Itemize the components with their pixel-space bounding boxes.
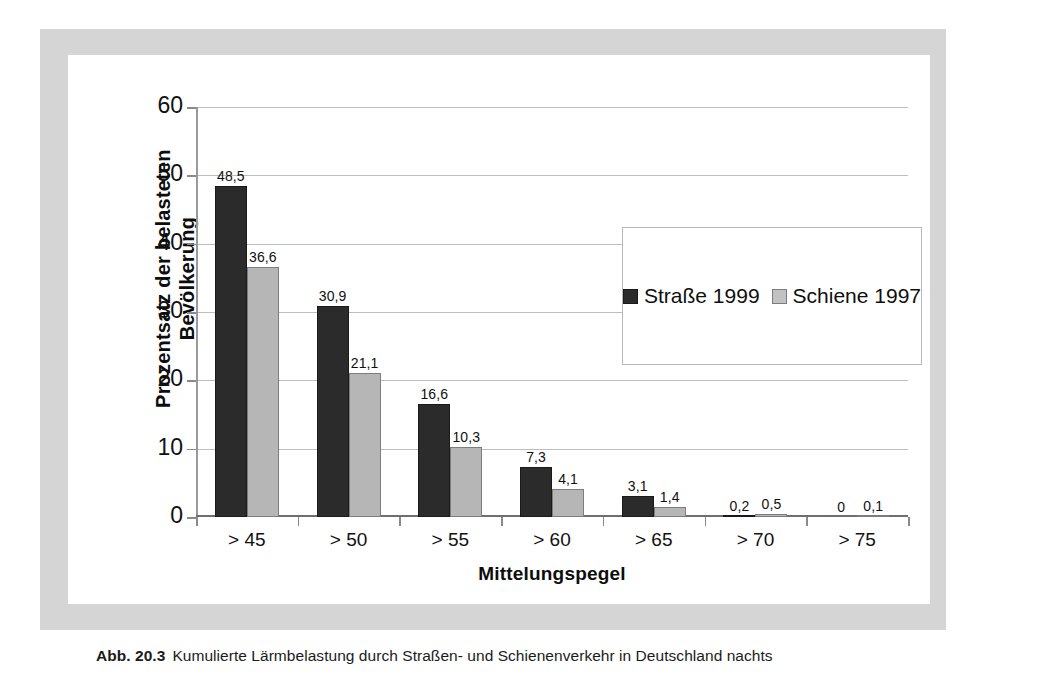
x-axis-tick-mark	[501, 517, 503, 526]
figure-caption: Abb. 20.3Kumulierte Lärmbelastung durch …	[96, 647, 936, 665]
bar	[418, 404, 450, 517]
y-axis-tick-label: 10	[157, 434, 183, 461]
bar	[552, 489, 584, 517]
y-axis-tick-mark	[187, 449, 196, 451]
bar-value-label: 0,1	[863, 498, 883, 514]
bar-slot: 30,9	[317, 306, 349, 517]
x-axis-tick-mark	[806, 517, 808, 526]
bar-value-label: 1,4	[660, 489, 680, 505]
bar-slot: 7,3	[520, 467, 552, 517]
legend-label: Schiene 1997	[793, 284, 921, 308]
y-axis-tick-mark	[187, 517, 196, 519]
x-axis-tick-mark	[705, 517, 707, 526]
bar-value-label: 0	[837, 499, 845, 515]
bar-value-label: 16,6	[420, 386, 448, 402]
x-axis-tick-mark	[298, 517, 300, 526]
legend-swatch-icon	[772, 289, 787, 304]
bar	[654, 507, 686, 517]
y-axis-tick-label: 50	[157, 160, 183, 187]
bar-value-label: 30,9	[319, 288, 347, 304]
bar	[349, 373, 381, 517]
x-axis-title: Mittelungspegel	[196, 563, 908, 585]
y-axis-tick-mark	[187, 244, 196, 246]
legend-item: Schiene 1997	[772, 284, 921, 308]
bar	[622, 496, 654, 517]
bar-slot: 3,1	[622, 496, 654, 517]
bar-slot: 10,3	[450, 447, 482, 517]
bar	[215, 186, 247, 517]
x-axis-tick-labels: > 45> 50> 55> 60> 65> 70> 75	[196, 529, 908, 551]
x-axis-tick-mark	[908, 517, 910, 526]
figure-frame: Prozentsatz der belasteten Bevölkerung 0…	[40, 29, 946, 630]
y-axis-tick-mark	[187, 312, 196, 314]
chart-legend: Straße 1999Schiene 1997	[622, 227, 922, 365]
legend-items: Straße 1999Schiene 1997	[623, 284, 921, 308]
x-axis-tick-label: > 65	[603, 529, 705, 551]
x-axis-tick-label: > 60	[501, 529, 603, 551]
bar-value-label: 36,6	[249, 249, 277, 265]
figure-root: Prozentsatz der belasteten Bevölkerung 0…	[0, 0, 1038, 679]
y-axis-tick-label: 30	[157, 297, 183, 324]
x-axis-tick-label: > 75	[806, 529, 908, 551]
bar	[520, 467, 552, 517]
bar-value-label: 48,5	[217, 168, 245, 184]
bar	[247, 267, 279, 517]
x-axis-tick-label: > 55	[399, 529, 501, 551]
y-axis-tick-label: 40	[157, 229, 183, 256]
bar-slot: 36,6	[247, 267, 279, 517]
x-axis-tick-label: > 70	[705, 529, 807, 551]
bar-group: 30,921,1	[298, 107, 400, 517]
bar-value-label: 0,5	[762, 496, 782, 512]
y-axis-tick-mark	[187, 175, 196, 177]
y-axis-tick-mark	[187, 380, 196, 382]
chart-area: Prozentsatz der belasteten Bevölkerung 0…	[68, 55, 930, 555]
x-axis-tick-mark	[196, 517, 198, 526]
bar-value-label: 7,3	[526, 449, 546, 465]
bar-slot: 1,4	[654, 507, 686, 517]
y-axis-tick-mark	[187, 107, 196, 109]
x-axis-tick-mark	[399, 517, 401, 526]
legend-swatch-icon	[623, 289, 638, 304]
bar	[317, 306, 349, 517]
bar-slot: 4,1	[552, 489, 584, 517]
bar-slot: 21,1	[349, 373, 381, 517]
figure-plate: Prozentsatz der belasteten Bevölkerung 0…	[68, 55, 930, 604]
bar-slot: 48,5	[215, 186, 247, 517]
bar	[450, 447, 482, 517]
bar-value-label: 4,1	[558, 471, 578, 487]
x-axis-tick-label: > 50	[298, 529, 400, 551]
bar-group: 16,610,3	[399, 107, 501, 517]
bar-value-label: 0,2	[730, 498, 750, 514]
bar-group: 7,34,1	[501, 107, 603, 517]
bar-slot: 16,6	[418, 404, 450, 517]
bar-group: 48,536,6	[196, 107, 298, 517]
bar-value-label: 3,1	[628, 478, 648, 494]
bar-value-label: 21,1	[351, 355, 379, 371]
figure-caption-label: Abb. 20.3	[96, 647, 165, 664]
x-axis-tick-label: > 45	[196, 529, 298, 551]
legend-item: Straße 1999	[623, 284, 760, 308]
x-axis-tick-mark	[603, 517, 605, 526]
bar-value-label: 10,3	[452, 429, 480, 445]
y-axis-tick-label: 60	[157, 92, 183, 119]
y-axis-tick-label: 20	[157, 365, 183, 392]
legend-label: Straße 1999	[644, 284, 760, 308]
figure-caption-text: Kumulierte Lärmbelastung durch Straßen- …	[172, 647, 772, 664]
y-axis-tick-label: 0	[170, 502, 183, 529]
x-axis-tick-marks	[196, 517, 908, 526]
